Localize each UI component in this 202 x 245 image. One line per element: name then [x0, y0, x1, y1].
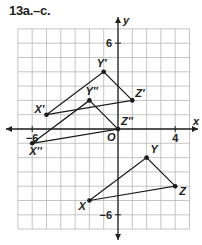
- vertex-point: [44, 112, 49, 117]
- vertex-label: Z'': [120, 115, 133, 127]
- vertex-label: Y: [151, 143, 160, 155]
- y-tick-label: 6: [106, 37, 112, 49]
- vertex-label: X': [34, 103, 45, 115]
- vertex-point: [173, 184, 178, 189]
- vertex-point: [144, 155, 149, 160]
- y-axis-label: y: [122, 14, 130, 26]
- coordinate-grid: yxO6−6−64XYZX'Y'Z'X''Y''Z'': [0, 0, 202, 245]
- vertex-label: X'': [28, 145, 42, 157]
- x-axis-label: x: [192, 115, 200, 127]
- vertex-point: [116, 127, 121, 132]
- origin-label: O: [107, 131, 116, 143]
- vertex-point: [87, 98, 92, 103]
- vertex-label: Y'': [85, 85, 98, 97]
- y-tick-label: −6: [99, 209, 112, 221]
- vertex-point: [87, 198, 92, 203]
- vertex-label: X: [77, 200, 86, 212]
- vertex-point: [130, 98, 135, 103]
- x-axis-left-arrow-icon: [6, 126, 12, 132]
- y-axis-down-arrow-icon: [115, 234, 121, 240]
- vertex-label: Y': [97, 57, 107, 69]
- x-tick-label: 4: [172, 132, 179, 144]
- vertex-label: Z': [134, 87, 145, 99]
- vertex-point: [101, 70, 106, 75]
- y-axis-up-arrow-icon: [115, 17, 121, 23]
- vertex-label: Z: [178, 185, 187, 197]
